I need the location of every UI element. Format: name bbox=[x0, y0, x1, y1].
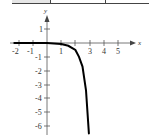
x-tick-label: -2 bbox=[12, 47, 19, 56]
x-tick-label: 3 bbox=[88, 47, 92, 56]
y-tick-label: -1 bbox=[35, 53, 42, 62]
y-tick-label: -2 bbox=[35, 67, 42, 76]
x-tick-label: 5 bbox=[116, 47, 120, 56]
y-tick-label: 1 bbox=[39, 25, 43, 34]
x-axis-arrow-icon bbox=[130, 41, 136, 46]
y-tick-label: -3 bbox=[35, 81, 42, 90]
function-curve bbox=[14, 43, 89, 133]
y-axis-arrow-icon bbox=[45, 15, 50, 22]
x-tick-label: 1 bbox=[59, 47, 63, 56]
x-tick-label: 4 bbox=[102, 47, 106, 56]
x-axis-label: x bbox=[137, 39, 142, 47]
y-tick-label: -6 bbox=[35, 122, 42, 131]
y-tick-label: -5 bbox=[35, 108, 42, 117]
function-graph: x y -2 -1 1 3 4 5 1 -1 -2 -3 -4 -5 -6 bbox=[0, 0, 149, 137]
x-tick-label: -1 bbox=[27, 47, 34, 56]
y-tick-label: -4 bbox=[35, 94, 42, 103]
y-axis-label: y bbox=[43, 7, 48, 15]
